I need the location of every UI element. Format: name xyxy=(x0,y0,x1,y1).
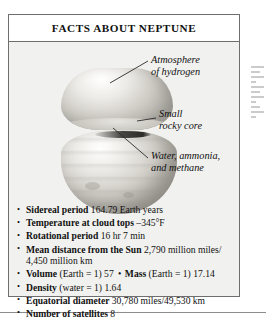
neptune-facts-list: Sidereal period 164.79 Earth years Tempe… xyxy=(17,204,237,321)
fact-value: 30,780 miles/49,530 km xyxy=(112,295,205,306)
fact-value: 164.79 Earth years xyxy=(91,204,163,215)
callout-label-rocky-core: Small rocky core xyxy=(159,108,202,132)
callout-water-line1: Water, ammonia, xyxy=(151,150,220,162)
fact-label: Volume xyxy=(26,268,57,279)
fact-value: 16 hr 7 min xyxy=(101,230,146,241)
fact-box-body: Atmosphere of hydrogen Small rocky core … xyxy=(9,42,239,296)
list-item: Mean distance from the Sun 2,790 million… xyxy=(17,244,237,267)
fact-value: –345°F xyxy=(136,217,164,228)
fact-value: (Earth = 1) 57 xyxy=(60,268,114,279)
list-item: Rotational period 16 hr 7 min xyxy=(17,230,237,242)
page-title: FACTS ABOUT NEPTUNE xyxy=(52,22,196,34)
callout-core-line1: Small xyxy=(159,108,202,120)
fact-label-secondary: Mass xyxy=(125,268,146,279)
fact-label: Number of satellites xyxy=(26,308,108,319)
fact-label: Rotational period xyxy=(26,230,98,241)
list-item: Density (water = 1) 1.64 xyxy=(17,282,237,294)
fact-box-title-bar: FACTS ABOUT NEPTUNE xyxy=(9,15,239,42)
planet-surface-spot xyxy=(123,192,134,198)
callout-label-water-ammonia-methane: Water, ammonia, and methane xyxy=(151,150,220,174)
fact-label: Mean distance from the Sun xyxy=(26,244,141,255)
callout-label-atmosphere: Atmosphere of hydrogen xyxy=(151,54,200,78)
list-item: Volume (Earth = 1) 57 • Mass (Earth = 1)… xyxy=(17,268,237,280)
callout-core-line2: rocky core xyxy=(159,120,202,132)
callout-atmosphere-line2: of hydrogen xyxy=(151,66,200,78)
callout-water-line2: and methane xyxy=(151,162,220,174)
fact-label: Equatorial diameter xyxy=(26,295,109,306)
inline-bullet: • xyxy=(116,268,122,279)
fact-label: Sidereal period xyxy=(26,204,88,215)
fact-value: (water = 1) 1.64 xyxy=(59,282,121,293)
facts-about-neptune-box: FACTS ABOUT NEPTUNE Atmosphere of hydrog… xyxy=(8,14,240,297)
planet-surface-spot xyxy=(85,182,100,190)
fact-label: Density xyxy=(26,282,57,293)
list-item: Temperature at cloud tops –345°F xyxy=(17,217,237,229)
fact-value: 8 xyxy=(110,308,115,319)
neptune-cutaway-diagram xyxy=(61,64,179,214)
list-item: Number of satellites 8 xyxy=(17,308,237,320)
list-item: Equatorial diameter 30,780 miles/49,530 … xyxy=(17,295,237,307)
callout-atmosphere-line1: Atmosphere xyxy=(151,54,200,66)
fact-value-secondary: (Earth = 1) 17.14 xyxy=(149,268,215,279)
adjacent-page-text-column xyxy=(248,0,266,310)
list-item: Sidereal period 164.79 Earth years xyxy=(17,204,237,216)
fact-label: Temperature at cloud tops xyxy=(26,217,134,228)
